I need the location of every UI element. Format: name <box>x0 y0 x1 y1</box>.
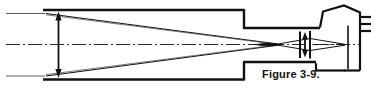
lower-inner-ray <box>46 45 276 75</box>
upper-inner-ray <box>46 15 276 44</box>
small-diameter-tube-section <box>243 28 345 71</box>
beam-upper-converging <box>310 39 345 45</box>
optical-ray-diagram <box>0 0 385 92</box>
figure-container: Figure 3-9. <box>0 0 385 92</box>
angled-detector-housing <box>320 6 360 71</box>
housing-outline <box>320 6 360 71</box>
terminal-contact-ticks <box>360 17 371 31</box>
first-caustic-lens-shape <box>255 43 281 46</box>
figure-caption: Figure 3-9. <box>262 68 320 80</box>
beam-lower-converging <box>310 45 345 50</box>
image-arrowhead-up <box>302 32 308 40</box>
image-arrowhead-down <box>302 50 308 58</box>
